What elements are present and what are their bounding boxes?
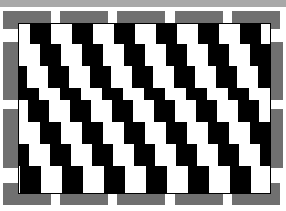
white-tile: [125, 166, 146, 193]
white-tile: [41, 166, 62, 193]
tile-row: [19, 122, 270, 144]
tile-row: [19, 144, 270, 166]
white-tile: [103, 122, 124, 144]
white-tile: [155, 144, 176, 166]
white-tile: [103, 44, 124, 66]
white-tile: [27, 66, 48, 88]
white-tile: [165, 88, 186, 100]
tile-row: [19, 24, 270, 44]
white-tile: [229, 44, 250, 66]
white-tile: [145, 122, 166, 144]
white-tile: [29, 144, 50, 166]
white-tile: [19, 44, 40, 66]
white-tile: [249, 88, 270, 100]
white-tile: [113, 144, 134, 166]
white-tile: [93, 24, 114, 44]
brick: [3, 109, 19, 168]
top-border-bar: [0, 0, 286, 7]
tile-row: [19, 166, 270, 193]
white-tile: [187, 122, 208, 144]
cafe-wall-pattern: [19, 24, 270, 193]
white-tile: [49, 100, 70, 122]
brick: [270, 42, 283, 100]
white-tile: [145, 44, 166, 66]
white-tile: [239, 144, 260, 166]
white-tile: [207, 88, 228, 100]
white-tile: [219, 24, 240, 44]
white-tile: [61, 122, 82, 144]
brick: [3, 42, 19, 100]
white-tile: [135, 24, 156, 44]
white-tile: [91, 100, 112, 122]
white-tile: [187, 44, 208, 66]
white-tile: [133, 100, 154, 122]
white-tile: [261, 24, 270, 44]
white-tile: [19, 100, 28, 122]
white-tile: [237, 66, 258, 88]
white-tile: [251, 166, 270, 193]
white-tile: [61, 44, 82, 66]
tile-row: [19, 88, 270, 100]
white-tile: [111, 66, 132, 88]
white-tile: [217, 100, 238, 122]
white-tile: [259, 100, 270, 122]
white-tile: [167, 166, 188, 193]
white-tile: [69, 66, 90, 88]
white-tile: [19, 122, 40, 144]
white-tile: [83, 166, 104, 193]
brick: [270, 109, 283, 168]
white-tile: [71, 144, 92, 166]
white-tile: [39, 88, 60, 100]
white-tile: [19, 24, 30, 44]
white-tile: [175, 100, 196, 122]
white-tile: [123, 88, 144, 100]
white-tile: [177, 24, 198, 44]
white-tile: [209, 166, 230, 193]
white-tile: [195, 66, 216, 88]
tile-row: [19, 44, 270, 66]
white-tile: [51, 24, 72, 44]
white-tile: [197, 144, 218, 166]
white-tile: [229, 122, 250, 144]
white-tile: [19, 166, 20, 193]
white-tile: [81, 88, 102, 100]
tile-row: [19, 100, 270, 122]
white-tile: [153, 66, 174, 88]
tile-row: [19, 66, 270, 88]
